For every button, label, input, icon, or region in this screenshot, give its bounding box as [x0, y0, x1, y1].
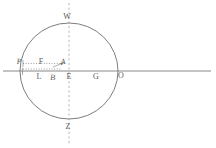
point-label-Z: Z — [66, 123, 71, 131]
figure-canvas — [0, 0, 216, 148]
point-label-B: B — [50, 74, 56, 82]
point-label-P: P — [16, 58, 21, 66]
point-label-G: G — [93, 73, 99, 81]
point-label-W: W — [63, 13, 71, 21]
point-label-F: F — [39, 58, 43, 66]
point-label-A: A — [60, 58, 67, 66]
point-label-O: O — [118, 72, 124, 80]
geometry-figure: W P F A L B E G O Z — [0, 0, 216, 148]
point-label-L: L — [37, 73, 42, 81]
point-label-E: E — [67, 73, 72, 81]
